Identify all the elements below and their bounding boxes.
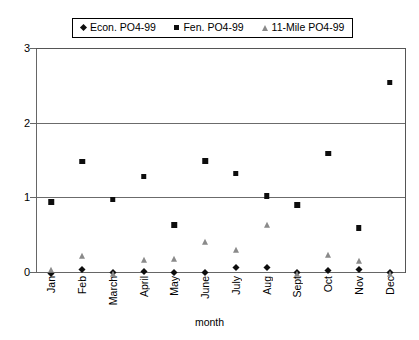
data-point [49,191,55,209]
data-point [110,188,116,206]
x-axis-tick-label: Oct [323,276,334,292]
square-marker-icon [174,25,180,31]
data-point [387,71,393,89]
x-axis-tick-label: April [139,276,150,297]
data-point [325,244,331,262]
diamond-marker-icon [325,267,332,274]
x-axis-tick-label: May [169,276,180,296]
legend-entry[interactable]: Fen. PO4-99 [174,21,244,34]
data-point [326,259,331,277]
data-point [48,259,54,277]
data-point [79,245,85,263]
square-marker-icon [49,199,55,205]
triangle-marker-icon [202,239,208,245]
data-point [356,217,362,235]
triangle-marker-icon [171,256,177,262]
square-marker-icon [295,202,301,208]
data-point [233,256,238,274]
y-axis-tick-label: 2 [6,117,30,128]
data-point [356,250,362,268]
data-point [387,263,393,281]
square-marker-icon [356,225,362,231]
x-axis-tick-label: Feb [77,276,88,294]
legend-label: Fen. PO4-99 [183,21,243,34]
x-axis-tick-label: Aug [262,276,273,295]
data-point [264,256,269,274]
y-axis-tick-label: 1 [6,192,30,203]
data-point [325,142,331,160]
square-marker-icon [325,151,331,157]
square-marker-icon [264,193,270,199]
chart-container: Econ. PO4-99Fen. PO4-9911-Mile PO4-99 01… [0,0,419,340]
data-point [233,162,239,180]
legend-entry[interactable]: 11-Mile PO4-99 [262,21,345,34]
legend-label: Econ. PO4-99 [90,21,156,34]
triangle-marker-icon [262,25,268,31]
triangle-marker-icon [387,271,393,277]
data-point [233,239,239,257]
diamond-marker-icon [80,24,87,31]
triangle-marker-icon [48,267,54,273]
square-marker-icon [172,222,178,228]
diamond-marker-icon [140,268,147,275]
x-axis-tick-label: July [231,276,242,295]
data-point [264,185,270,203]
square-marker-icon [233,171,239,177]
data-point [141,248,147,266]
data-point [202,231,208,249]
triangle-marker-icon [110,271,116,277]
diamond-marker-icon [171,269,178,276]
diamond-marker-icon [232,264,239,271]
data-point [141,165,147,183]
data-point [202,150,208,168]
legend-label: 11-Mile PO4-99 [272,21,345,34]
y-axis-tick-label: 3 [6,43,30,54]
x-axis-title: month [0,316,419,328]
data-point [79,150,85,168]
diamond-marker-icon [263,263,270,270]
triangle-marker-icon [356,258,362,264]
data-point [264,214,270,232]
plot-area [36,48,406,273]
x-axis-tick-label: June [200,276,211,299]
x-axis-tick-label: Nov [354,276,365,295]
triangle-marker-icon [141,256,147,262]
data-point [295,194,301,212]
data-point [294,263,300,281]
square-marker-icon [110,197,116,203]
square-marker-icon [141,174,147,180]
diamond-marker-icon [202,269,209,276]
triangle-marker-icon [79,253,85,259]
triangle-marker-icon [233,247,239,253]
square-marker-icon [79,159,85,165]
data-point [110,263,116,281]
y-axis-tick-label: 0 [6,267,30,278]
chart-legend: Econ. PO4-99Fen. PO4-9911-Mile PO4-99 [72,18,353,38]
data-point [171,248,177,266]
triangle-marker-icon [264,222,270,228]
legend-entry[interactable]: Econ. PO4-99 [81,21,156,34]
data-point [172,214,178,232]
square-marker-icon [202,158,208,164]
triangle-marker-icon [325,252,331,258]
diamond-marker-icon [79,266,86,273]
triangle-marker-icon [294,271,300,277]
data-point [203,261,208,279]
square-marker-icon [387,80,393,86]
